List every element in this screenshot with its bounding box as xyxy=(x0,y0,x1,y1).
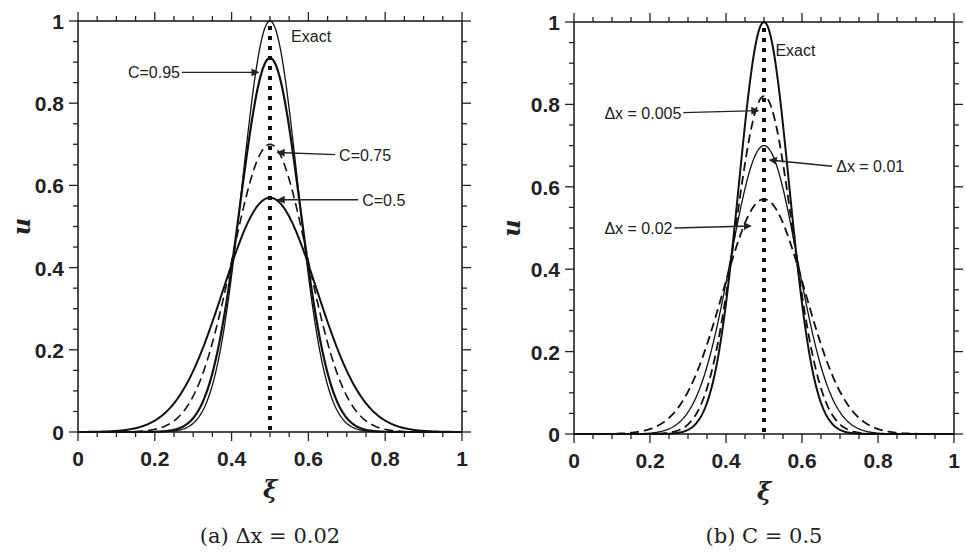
x-tick-label: 0.6 xyxy=(787,449,816,472)
figure: 00.20.40.60.8100.20.40.60.81ξuExactC=0.9… xyxy=(0,0,966,553)
x-tick-label: 0.2 xyxy=(140,447,169,470)
y-tick-label: 0.2 xyxy=(35,339,64,362)
caption-a: (a) Δx = 0.02 xyxy=(200,524,340,548)
x-tick-label: 0.8 xyxy=(371,447,401,470)
annotation-label: Δx = 0.005 xyxy=(604,105,681,122)
y-tick-label: 0.8 xyxy=(35,92,65,115)
x-tick-label: 0.6 xyxy=(294,447,323,470)
annotation-arrow xyxy=(278,153,335,155)
annotation-label: Exact xyxy=(291,28,332,45)
y-tick-label: 1 xyxy=(548,11,560,34)
x-tick-label: 0.4 xyxy=(711,449,741,472)
annotation-arrow xyxy=(770,160,833,166)
y-axis-title: u xyxy=(497,219,526,236)
x-tick-label: 0.2 xyxy=(635,449,664,472)
annotation-label: C=0.5 xyxy=(362,192,405,209)
annotation-label: C=0.75 xyxy=(339,147,391,164)
x-tick-label: 0.8 xyxy=(863,449,893,472)
x-tick-label: 0.4 xyxy=(217,447,247,470)
panel-b: 00.20.40.60.8100.20.40.60.81ξuExactΔx = … xyxy=(497,11,963,506)
x-axis-title: ξ xyxy=(757,477,773,506)
y-tick-label: 0.6 xyxy=(531,176,560,199)
panel-a: 00.20.40.60.8100.20.40.60.81ξuExactC=0.9… xyxy=(7,10,471,504)
series-line xyxy=(574,96,954,434)
annotation-arrow xyxy=(674,226,750,228)
x-tick-label: 0 xyxy=(72,447,84,470)
y-tick-label: 0 xyxy=(548,423,560,446)
annotation-label: Δx = 0.01 xyxy=(836,158,904,175)
annotation-label: C=0.95 xyxy=(128,64,180,81)
caption-b: (b) C = 0.5 xyxy=(706,524,823,548)
annotation-label: Δx = 0.02 xyxy=(604,220,672,237)
x-tick-label: 1 xyxy=(948,449,960,472)
y-tick-label: 0.8 xyxy=(531,93,561,116)
x-axis-title: ξ xyxy=(263,475,279,504)
y-axis-title: u xyxy=(7,218,36,235)
series-line xyxy=(78,58,462,432)
y-tick-label: 0.4 xyxy=(531,258,561,281)
y-tick-label: 1 xyxy=(52,10,64,33)
x-tick-label: 0 xyxy=(568,449,580,472)
y-tick-label: 0.2 xyxy=(531,341,560,364)
x-tick-label: 1 xyxy=(456,447,468,470)
y-tick-label: 0.4 xyxy=(35,257,65,280)
y-tick-label: 0 xyxy=(52,421,64,444)
annotation-label: Exact xyxy=(775,42,816,59)
y-tick-label: 0.6 xyxy=(35,174,64,197)
